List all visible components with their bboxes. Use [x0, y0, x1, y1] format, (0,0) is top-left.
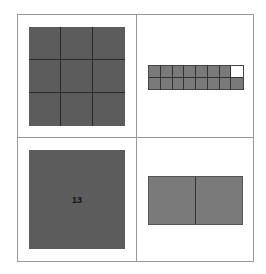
grid-cell — [184, 66, 196, 78]
grid-cell — [29, 60, 61, 93]
grid-cell — [61, 60, 93, 93]
grid-cell — [29, 93, 61, 126]
square-label: 13 — [72, 195, 82, 205]
grid-cell — [29, 27, 61, 60]
grid-cell — [173, 78, 185, 90]
grid-cell — [184, 78, 196, 90]
grid-cell — [61, 27, 93, 60]
grid-cell — [196, 177, 243, 224]
grid-cell — [149, 177, 196, 224]
grid-cell — [208, 78, 220, 90]
grid-cell — [93, 93, 125, 126]
horizontal-divider — [17, 137, 254, 138]
grid-cell — [93, 60, 125, 93]
grid-cell — [161, 66, 173, 78]
grid-cell — [231, 78, 243, 90]
grid-cell — [93, 27, 125, 60]
grid-cell — [173, 66, 185, 78]
grid-cell — [196, 78, 208, 90]
grid-cell — [149, 66, 161, 78]
grid-cell — [161, 78, 173, 90]
panel-top-right-8x2-grid — [148, 65, 244, 90]
grid-cell — [220, 78, 232, 90]
panel-top-left-3x3-grid — [29, 27, 125, 126]
grid-cell — [61, 93, 93, 126]
grid-cell — [149, 78, 161, 90]
grid-cell — [208, 66, 220, 78]
vertical-divider — [136, 14, 137, 262]
grid-cell-empty — [231, 66, 243, 78]
grid-cell — [196, 66, 208, 78]
panel-bottom-left-square: 13 — [29, 150, 125, 249]
grid-cell — [220, 66, 232, 78]
panel-bottom-right-2-cell-rectangle — [148, 176, 243, 225]
